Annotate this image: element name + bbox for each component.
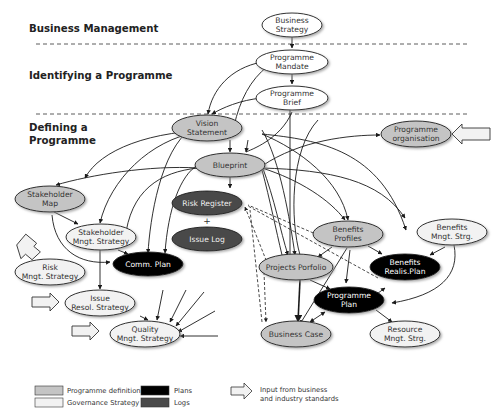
phase-label-defining: Defining a bbox=[29, 122, 88, 133]
input-arrow-icon bbox=[32, 293, 59, 311]
legend-label-plans: Plans bbox=[174, 387, 192, 395]
node-label: Benefits bbox=[332, 225, 363, 234]
node-label: Vision bbox=[196, 119, 219, 128]
node-issue-log[interactable]: Issue Log bbox=[172, 227, 242, 251]
node-stakeholder-map[interactable]: Stakeholder Map bbox=[15, 186, 85, 212]
node-label: Programme bbox=[270, 89, 314, 98]
node-label: Resol. Strategy bbox=[71, 303, 129, 312]
legend-swatch-plans bbox=[141, 386, 169, 395]
legend-label-governance-strategy: Governance Strategy bbox=[67, 399, 139, 407]
node-programme-organisation[interactable]: Programme organisation bbox=[381, 121, 451, 147]
node-label: Statement bbox=[187, 128, 227, 137]
legend-swatch-logs bbox=[141, 398, 169, 407]
phase-label-business-management: Business Management bbox=[29, 23, 159, 34]
phase-label-defining-2: Programme bbox=[29, 135, 96, 146]
legend-label-programme-definition: Programme definition bbox=[67, 387, 141, 395]
input-arrow-icon bbox=[452, 124, 490, 144]
node-risk-mngt-strategy[interactable]: Risk Mngt. Strategy bbox=[15, 259, 85, 285]
node-label: Business bbox=[275, 16, 309, 25]
legend-input-arrow-icon bbox=[231, 383, 252, 399]
node-comm-plan[interactable]: Comm. Plan bbox=[113, 252, 183, 276]
node-projects-portfolio[interactable]: Projects Porfolio bbox=[259, 254, 333, 280]
input-arrow-icon bbox=[16, 233, 41, 261]
node-label: Resource bbox=[388, 325, 423, 334]
legend-swatch-programme-definition bbox=[35, 386, 63, 395]
node-label: Issue bbox=[90, 294, 110, 303]
node-label: Mngt. Strategy bbox=[73, 237, 130, 246]
node-label: Issue Log bbox=[189, 235, 225, 244]
node-label: Stakeholder bbox=[78, 228, 124, 237]
node-business-case[interactable]: Business Case bbox=[261, 321, 331, 347]
node-label: Quality bbox=[131, 325, 159, 334]
node-label: Programme bbox=[327, 291, 371, 300]
programme-definition-diagram: Business Management Identifying a Progra… bbox=[0, 0, 504, 420]
node-label: Mngt. Strg. bbox=[384, 334, 426, 343]
node-label: Strategy bbox=[276, 25, 309, 34]
node-label: Plan bbox=[341, 300, 357, 309]
node-label: Mngt. Strg. bbox=[431, 232, 473, 241]
node-programme-mandate[interactable]: Programme Mandate bbox=[256, 50, 328, 74]
node-label: Risk Register bbox=[182, 199, 232, 208]
node-label: Mngt. Strategy bbox=[22, 272, 79, 281]
node-stakeholder-mngt-strategy[interactable]: Stakeholder Mngt. Strategy bbox=[66, 224, 136, 250]
legend-label-input-1: Input from business bbox=[260, 386, 328, 394]
node-label: Stakeholder bbox=[27, 190, 73, 199]
node-blueprint[interactable]: Blueprint bbox=[195, 153, 265, 177]
phase-label-identifying: Identifying a Programme bbox=[29, 70, 173, 81]
plus-sign: + bbox=[203, 216, 211, 226]
node-label: Map bbox=[42, 199, 58, 208]
node-label: Business Case bbox=[269, 330, 324, 339]
node-label: Profiles bbox=[334, 234, 362, 243]
node-label: Brief bbox=[283, 98, 301, 107]
node-vision-statement[interactable]: Vision Statement bbox=[172, 115, 242, 141]
input-arrow-icon bbox=[72, 322, 99, 340]
legend-label-logs: Logs bbox=[174, 399, 190, 407]
legend: Programme definition Governance Strategy… bbox=[35, 383, 339, 407]
node-label: organisation bbox=[392, 134, 439, 143]
node-benefits-mngt-strg[interactable]: Benefits Mngt. Strg. bbox=[417, 219, 487, 245]
node-label: Mngt. Strategy bbox=[117, 334, 174, 343]
node-label: Benefits bbox=[436, 223, 467, 232]
node-label: Programme bbox=[270, 53, 314, 62]
node-programme-plan[interactable]: Programme Plan bbox=[314, 287, 384, 313]
node-business-strategy[interactable]: Business Strategy bbox=[262, 13, 322, 37]
node-label: Benefits bbox=[389, 258, 420, 267]
node-benefits-realis-plan[interactable]: Benefits Realis.Plan bbox=[370, 254, 440, 280]
legend-swatch-governance-strategy bbox=[35, 398, 63, 407]
node-programme-brief[interactable]: Programme Brief bbox=[256, 86, 328, 110]
node-label: Risk bbox=[42, 263, 58, 272]
node-label: Programme bbox=[394, 125, 438, 134]
node-risk-register[interactable]: Risk Register bbox=[172, 191, 242, 215]
node-issue-resol-strategy[interactable]: Issue Resol. Strategy bbox=[65, 290, 135, 316]
node-benefits-profiles[interactable]: Benefits Profiles bbox=[313, 221, 383, 247]
node-label: Realis.Plan bbox=[384, 267, 425, 276]
node-quality-mngt-strategy[interactable]: Quality Mngt. Strategy bbox=[110, 321, 180, 347]
node-label: Blueprint bbox=[213, 161, 248, 170]
node-label: Comm. Plan bbox=[125, 260, 171, 269]
node-label: Mandate bbox=[275, 62, 308, 71]
legend-label-input-2: and industry standards bbox=[260, 395, 339, 403]
node-label: Projects Porfolio bbox=[266, 263, 327, 272]
node-resource-mngt-strg[interactable]: Resource Mngt. Strg. bbox=[370, 321, 440, 347]
